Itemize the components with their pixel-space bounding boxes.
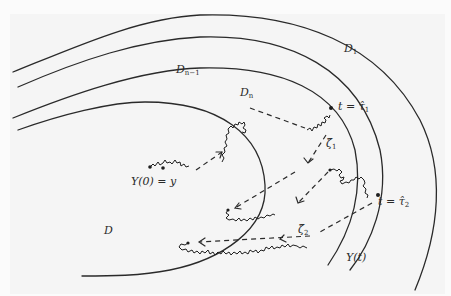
brownian-path-tau2: [330, 169, 368, 198]
boundary-curve-d1: [18, 37, 383, 270]
label-end: Y(t): [346, 252, 366, 263]
brownian-path-bottom: [179, 243, 307, 255]
label-start: Y(0) = y: [131, 176, 176, 187]
brownian-path-tau1: [307, 115, 330, 131]
arrowhead-start: [216, 152, 222, 158]
label-dn-minus-1: Dn−1: [176, 64, 200, 77]
jump-arrow-to-tau1: [250, 108, 305, 128]
label-zeta2: ζ̂2: [298, 224, 308, 237]
brownian-path-start: [150, 160, 189, 167]
diagram-canvas: D1 Dn−1 Dn D t = τ̂1 ζ̂1 Y(0) = y t = τ̂…: [0, 0, 451, 296]
brownian-path-boundary-1: [222, 122, 246, 162]
label-tau2: t = τ̂2: [378, 196, 409, 209]
jump-arrow-start: [196, 152, 222, 170]
boundary-curve-d: [18, 102, 265, 276]
label-tau1: t = τ̂1: [338, 101, 369, 114]
arrowhead-zeta2: [280, 235, 286, 242]
jump-arrow-zeta2: [318, 203, 372, 233]
label-dn: Dn: [240, 87, 253, 100]
diagram-figure: [0, 0, 451, 296]
label-d: D: [104, 225, 113, 236]
jump-arrow-from-path: [298, 172, 328, 203]
label-zeta1: ζ̂1: [326, 138, 336, 151]
arrowhead-zeta1: [304, 158, 313, 163]
brownian-path-middle: [226, 210, 275, 221]
jump-arrow-bottom: [200, 236, 310, 242]
label-d1: D1: [344, 43, 357, 56]
jump-arrow-zeta1: [308, 135, 326, 163]
